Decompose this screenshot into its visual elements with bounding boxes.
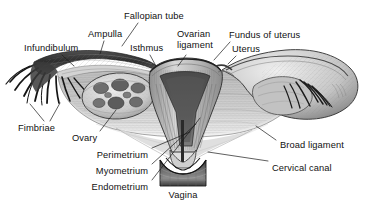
label-broad-ligament: Broad ligament [280, 140, 344, 151]
label-vagina: Vagina [153, 190, 213, 201]
label-myometrium: Myometrium [48, 166, 148, 177]
label-cervical-canal: Cervical canal [272, 163, 332, 174]
label-ovarian-ligament: Ovarian ligament [177, 29, 213, 51]
cervical-canal-slit [181, 120, 184, 164]
label-perimetrium: Perimetrium [48, 150, 148, 161]
label-fundus-of-uterus: Fundus of uterus [229, 30, 300, 41]
label-infundibulum: Infundibulum [24, 43, 78, 54]
label-fimbriae: Fimbriae [18, 123, 55, 134]
label-uterus: Uterus [232, 44, 260, 55]
label-ovary: Ovary [72, 133, 97, 144]
label-fallopian-tube: Fallopian tube [124, 11, 184, 22]
label-endometrium: Endometrium [48, 182, 148, 193]
anatomy-figure: Fallopian tube Ampulla Infundibulum Isth… [0, 0, 367, 210]
label-isthmus: Isthmus [130, 43, 163, 54]
label-ampulla: Ampulla [88, 29, 122, 40]
